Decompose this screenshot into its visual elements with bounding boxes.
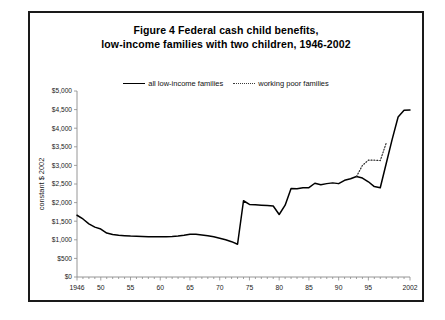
figure-title-line-1: Figure 4 Federal cash child benefits, xyxy=(133,24,318,36)
legend-label: all low-income families xyxy=(148,79,223,88)
dotted-line-swatch-icon xyxy=(233,83,255,84)
legend-item-working-poor-families: working poor families xyxy=(233,79,328,88)
chart-legend: all low-income families working poor fam… xyxy=(30,79,422,88)
solid-line-swatch-icon xyxy=(123,83,145,84)
figure-title-line-2: low-income families with two children, 1… xyxy=(30,37,422,51)
legend-item-all-low-income-families: all low-income families xyxy=(123,79,223,88)
figure-title: Figure 4 Federal cash child benefits, lo… xyxy=(30,23,422,51)
legend-label: working poor families xyxy=(258,79,328,88)
figure-frame: Figure 4 Federal cash child benefits, lo… xyxy=(28,11,424,302)
